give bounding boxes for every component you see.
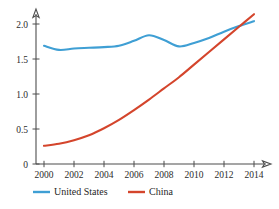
chart-canvas: 0 0.5 1.0 1.5 2.0 2000 2002 2004 2006 20… (0, 0, 279, 209)
x-tick-labels: 2000 2002 2004 2006 2008 2010 2012 2014 (35, 170, 264, 180)
y-tick-label-3: 1.5 (16, 55, 28, 65)
y-tick-labels: 0 0.5 1.0 1.5 2.0 (16, 20, 28, 170)
y-tick-label-2: 1.0 (16, 90, 28, 100)
y-tick-label-0: 0 (23, 160, 28, 170)
x-tick-label-2006: 2006 (125, 170, 144, 180)
x-axis-arrowhead (263, 161, 272, 167)
x-tick-label-2010: 2010 (185, 170, 204, 180)
axes-group (33, 9, 271, 167)
x-tick-label-2002: 2002 (65, 170, 84, 180)
x-tick-label-2014: 2014 (245, 170, 264, 180)
series-line-china (44, 14, 254, 146)
chart-legend: United States China (33, 186, 173, 197)
legend-label-china: China (149, 186, 173, 197)
legend-label-united-states: United States (54, 186, 108, 197)
x-tick-label-2008: 2008 (155, 170, 174, 180)
x-tick-label-2012: 2012 (215, 170, 234, 180)
y-tick-label-1: 0.5 (16, 125, 28, 135)
x-tick-label-2000: 2000 (35, 170, 54, 180)
y-axis-arrowhead (33, 9, 39, 18)
x-tick-label-2004: 2004 (95, 170, 114, 180)
line-chart: 0 0.5 1.0 1.5 2.0 2000 2002 2004 2006 20… (0, 0, 279, 209)
series-line-united-states (44, 21, 254, 50)
y-tick-label-4: 2.0 (16, 20, 28, 30)
